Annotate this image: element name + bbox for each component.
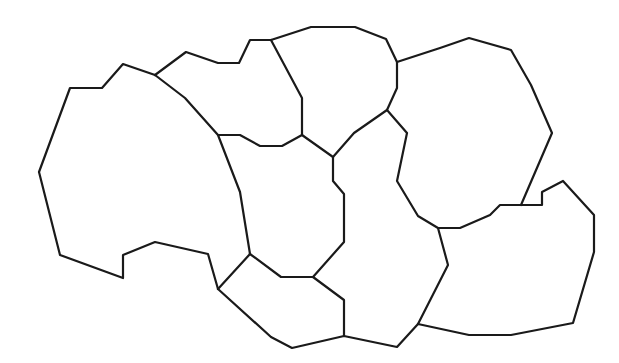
west-east-divider (155, 75, 250, 254)
central-column-divider (313, 157, 344, 277)
region-map-canvas (0, 0, 619, 363)
north-central-east-divider (387, 62, 397, 110)
region-outline-map (0, 0, 619, 363)
south-west-divider (218, 254, 250, 289)
central-south-divider (250, 254, 344, 336)
outer-west-boundary (39, 64, 218, 289)
outer-south-boundary (218, 289, 418, 348)
north-region-divider (271, 40, 302, 135)
south-east-divider (418, 228, 448, 324)
north-region-bottom (218, 135, 302, 146)
outer-north-east-boundary (397, 38, 552, 205)
outer-north-boundary (271, 27, 397, 62)
north-central-bottom (302, 110, 387, 157)
outer-north-west-boundary (155, 40, 271, 75)
east-region-west-divider (387, 110, 521, 228)
